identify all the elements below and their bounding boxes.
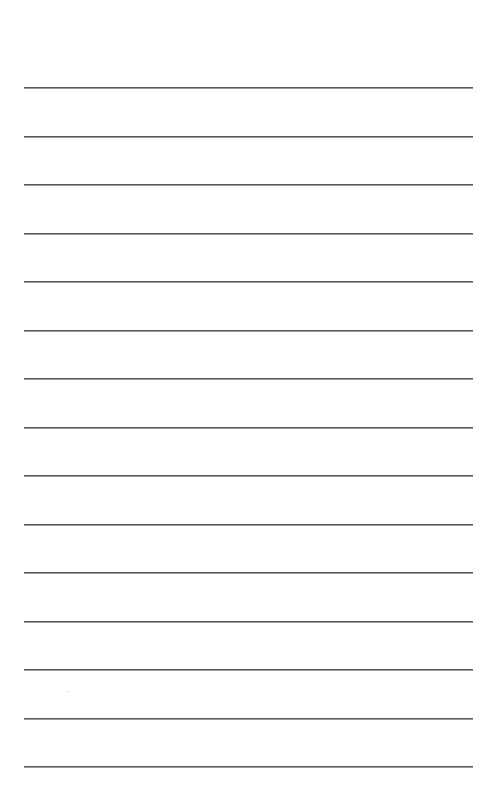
ruled-line-7	[24, 378, 473, 380]
paper-speck	[67, 691, 68, 692]
ruled-line-5	[24, 281, 473, 283]
ruled-line-1	[24, 87, 473, 89]
ruled-line-4	[24, 233, 473, 235]
ruled-line-2	[24, 136, 473, 138]
ruled-line-14	[24, 718, 473, 720]
ruled-line-3	[24, 184, 473, 186]
ruled-line-6	[24, 330, 473, 332]
lined-paper-page	[0, 0, 492, 806]
ruled-line-15	[24, 766, 473, 768]
ruled-line-11	[24, 572, 473, 574]
ruled-line-13	[24, 669, 473, 671]
ruled-line-12	[24, 621, 473, 623]
ruled-line-9	[24, 475, 473, 477]
ruled-line-8	[24, 427, 473, 429]
ruled-line-10	[24, 524, 473, 526]
